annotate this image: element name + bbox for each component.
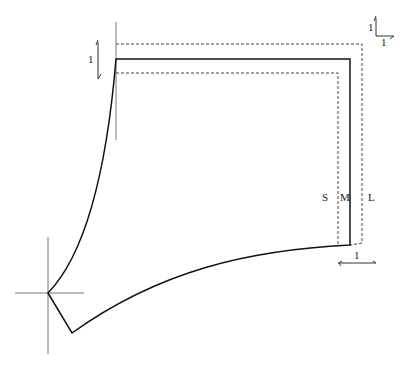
size-m-outline (48, 59, 350, 333)
pattern-diagram: 1 1 1 1 S M L (0, 0, 409, 373)
size-s-outline (116, 73, 338, 246)
grade-arrow-vertical-left (96, 40, 101, 79)
grade-arrow-horizontal-bottom-right (338, 261, 376, 266)
size-label-l: L (368, 191, 375, 203)
grade-label-bottom-right: 1 (354, 249, 360, 261)
size-label-s: S (322, 191, 328, 203)
grade-label-corner-vertical: 1 (368, 21, 374, 33)
grade-label-corner-horizontal: 1 (381, 36, 387, 48)
size-label-m: M (340, 191, 350, 203)
grade-label-left: 1 (88, 53, 94, 65)
size-l-outline (116, 44, 362, 245)
